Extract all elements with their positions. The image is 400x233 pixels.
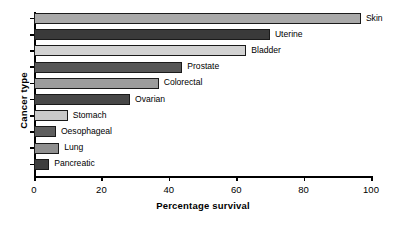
bar-label: Skin bbox=[366, 13, 383, 24]
bar-label: Uterine bbox=[275, 29, 303, 40]
x-tick-label: 0 bbox=[14, 184, 54, 195]
x-tick-label: 40 bbox=[149, 184, 189, 195]
bar-label: Bladder bbox=[251, 45, 281, 56]
bar-label: Stomach bbox=[73, 110, 107, 121]
x-axis-title: Percentage survival bbox=[34, 200, 372, 211]
x-tick bbox=[34, 176, 36, 181]
bar-label: Colorectal bbox=[164, 77, 203, 88]
bar bbox=[34, 78, 159, 89]
bar bbox=[34, 29, 270, 40]
x-tick bbox=[101, 176, 103, 181]
bar-label: Pancreatic bbox=[54, 158, 95, 169]
bar bbox=[34, 62, 182, 73]
bar bbox=[34, 13, 361, 24]
x-tick bbox=[236, 176, 238, 181]
bar bbox=[34, 159, 49, 170]
x-tick bbox=[371, 176, 373, 181]
bar-label: Prostate bbox=[187, 61, 219, 72]
x-tick bbox=[304, 176, 306, 181]
bar bbox=[34, 110, 68, 121]
bar bbox=[34, 143, 59, 154]
x-tick bbox=[169, 176, 171, 181]
x-tick-label: 80 bbox=[284, 184, 324, 195]
bar-label: Ovarian bbox=[135, 94, 165, 105]
x-axis-line bbox=[34, 176, 372, 178]
x-tick-label: 100 bbox=[351, 184, 391, 195]
x-tick-label: 60 bbox=[216, 184, 256, 195]
y-axis-title: Cancer type bbox=[18, 46, 29, 156]
bar bbox=[34, 94, 130, 105]
bar bbox=[34, 126, 56, 137]
bar-label: Lung bbox=[64, 142, 83, 153]
x-tick-label: 20 bbox=[81, 184, 121, 195]
bar-label: Oesophageal bbox=[61, 126, 112, 137]
bar-chart: Cancer type SkinUterineBladderProstateCo… bbox=[0, 0, 400, 233]
bar bbox=[34, 45, 246, 56]
